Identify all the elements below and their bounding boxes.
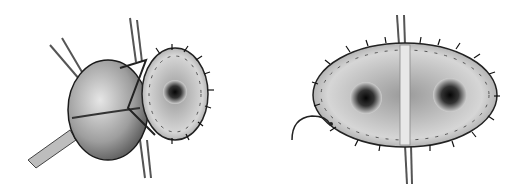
right-panel-illustration xyxy=(292,15,500,184)
left-panel-illustration xyxy=(28,18,214,178)
surgical-illustration xyxy=(0,0,522,196)
